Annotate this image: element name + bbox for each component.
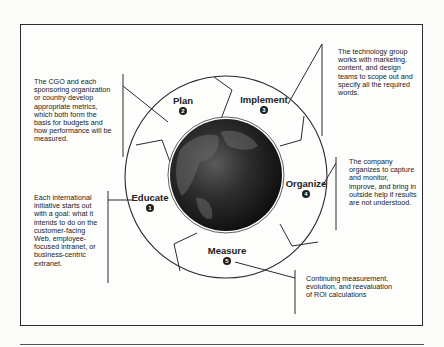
arrow-educate-to-plan [136,140,170,162]
stage-number-5-icon: 5 [223,257,231,265]
note-educate: Each international initiative starts out… [34,194,98,268]
stage-measure-label: Measure [208,245,247,256]
stage-implement-label: Implement [240,94,288,105]
stage-measure: Measure 5 [204,245,250,265]
stage-organize: Organize 4 [282,178,330,198]
note-implement: The technology group works with marketin… [338,48,416,97]
arrow-plan-to-implement [214,77,232,119]
stage-number-2-icon: 2 [179,107,187,115]
stage-implement: Implement 3 [236,94,292,114]
note-plan: The CGO and each sponsoring organization… [34,78,114,144]
stage-organize-label: Organize [286,178,327,189]
stage-educate: Educate 1 [128,192,172,212]
stage-plan-label: Plan [173,95,193,106]
note-organize: The company organizes to capture and mon… [349,158,417,207]
stage-number-1-icon: 1 [146,204,154,212]
note-measure: Continuing measurement, evolution, and r… [306,275,398,300]
stage-educate-label: Educate [132,192,169,203]
arrow-implement-to-organize [280,116,304,146]
stage-number-3-icon: 3 [260,106,268,114]
arrow-organize-to-measure [280,224,318,246]
stage-plan: Plan 2 [168,95,198,115]
stage-number-4-icon: 4 [302,190,310,198]
